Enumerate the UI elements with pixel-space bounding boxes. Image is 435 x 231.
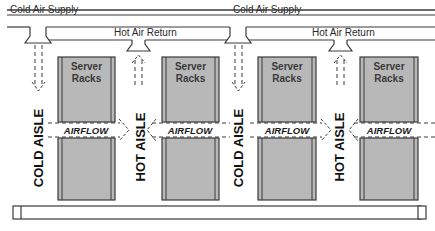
hot-return-intake-2 bbox=[329, 40, 352, 51]
hot-aisle-label-1: HOT AISLE bbox=[133, 112, 148, 181]
airflow-diagram: Cold Air Supply Cold Air Supply Hot Air … bbox=[0, 0, 435, 231]
cold-supply-down-arrow-1 bbox=[32, 45, 45, 91]
airflow-label-3: AIRFLOW bbox=[264, 125, 310, 136]
rack-label-3-line2: Racks bbox=[272, 73, 302, 84]
rack-label-3-line1: Server bbox=[271, 61, 302, 72]
cold-aisle-label-1: COLD AISLE bbox=[31, 109, 46, 188]
cold-aisle-label-2: COLD AISLE bbox=[231, 109, 246, 188]
hot-return-up-arrow-2 bbox=[334, 55, 347, 85]
rack-label-1-line2: Racks bbox=[72, 73, 102, 84]
hot-aisle-label-2: HOT AISLE bbox=[332, 112, 347, 181]
raised-floor bbox=[13, 206, 426, 219]
rack-label-4-line2: Racks bbox=[374, 73, 404, 84]
hot-return-intake-1 bbox=[127, 40, 150, 51]
rack-label-1-line1: Server bbox=[71, 61, 102, 72]
hot-return-up-arrow-1 bbox=[132, 55, 145, 85]
cold-supply-down-arrow-2 bbox=[232, 45, 245, 91]
airflow-label-1: AIRFLOW bbox=[63, 125, 109, 136]
rack-label-4-line1: Server bbox=[373, 61, 404, 72]
airflow-label-2: AIRFLOW bbox=[167, 125, 213, 136]
airflow-label-4: AIRFLOW bbox=[366, 125, 412, 136]
cold-supply-diffuser-1 bbox=[25, 27, 51, 43]
rack-label-2-line1: Server bbox=[175, 61, 206, 72]
cold-air-supply-label-1: Cold Air Supply bbox=[10, 4, 78, 15]
hot-air-return-label-1: Hot Air Return bbox=[114, 27, 177, 38]
cold-air-supply-label-2: Cold Air Supply bbox=[233, 4, 301, 15]
cold-supply-diffuser-2 bbox=[225, 27, 251, 43]
rack-label-2-line2: Racks bbox=[176, 73, 206, 84]
hot-air-return-label-2: Hot Air Return bbox=[312, 27, 375, 38]
